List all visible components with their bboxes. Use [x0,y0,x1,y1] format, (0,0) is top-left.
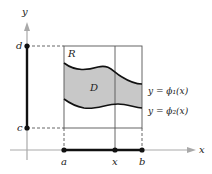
point-a [61,147,66,152]
tick-label-b: b [139,156,145,167]
region-label-d: D [89,82,98,93]
tick-label-d: d [16,40,22,51]
double-integral-region-diagram: y x d c a x b R D y = ϕ₁(x) y = ϕ₂(x) [0,0,212,174]
x-axis-arrow-icon [187,147,196,153]
y-axis-label: y [21,6,28,17]
point-b [139,147,144,152]
region-d [64,63,142,108]
curve-label-phi2: y = ϕ₂(x) [147,106,189,116]
point-c [24,125,29,130]
diagram-canvas: y x d c a x b R D y = ϕ₁(x) y = ϕ₂(x) [0,0,212,174]
point-x [112,147,117,152]
tick-label-a: a [61,156,67,167]
x-axis-label: x [199,144,205,155]
tick-label-c: c [17,122,23,133]
rectangle-label-r: R [67,48,76,59]
point-d [24,43,29,48]
curve-label-phi1: y = ϕ₁(x) [147,86,189,96]
y-axis-arrow-icon [24,22,30,31]
tick-label-x: x [112,156,118,167]
